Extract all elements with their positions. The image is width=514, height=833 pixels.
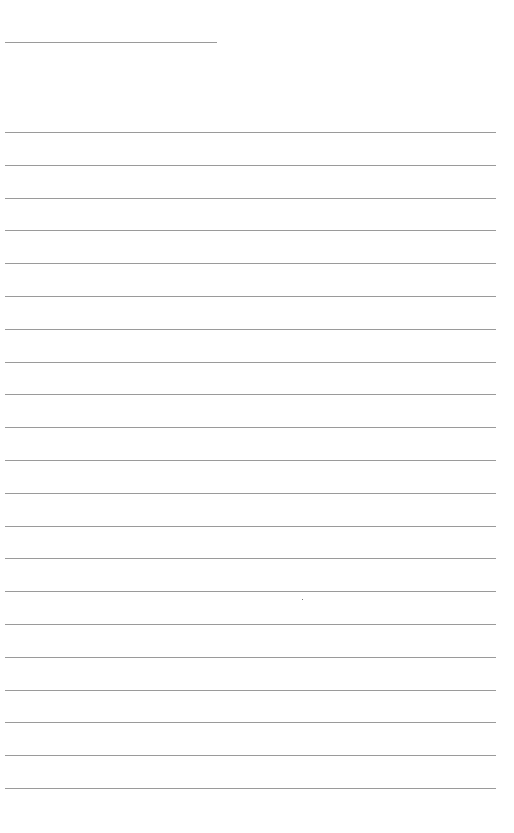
ruled-line (5, 362, 496, 363)
ruled-line (5, 165, 496, 166)
header-line (5, 42, 217, 43)
ruled-line (5, 624, 496, 625)
ruled-line (5, 788, 496, 789)
ruled-line (5, 690, 496, 691)
ruled-line (5, 526, 496, 527)
ruled-line (5, 198, 496, 199)
ruled-line (5, 722, 496, 723)
ruled-line (5, 132, 496, 133)
ruled-line (5, 657, 496, 658)
stray-mark (302, 599, 303, 600)
ruled-line (5, 230, 496, 231)
ruled-line (5, 591, 496, 592)
ruled-line (5, 329, 496, 330)
ruled-line (5, 460, 496, 461)
ruled-line (5, 296, 496, 297)
ruled-line (5, 263, 496, 264)
ruled-line (5, 755, 496, 756)
ruled-line (5, 427, 496, 428)
ruled-line (5, 558, 496, 559)
ruled-line (5, 394, 496, 395)
ruled-line (5, 493, 496, 494)
